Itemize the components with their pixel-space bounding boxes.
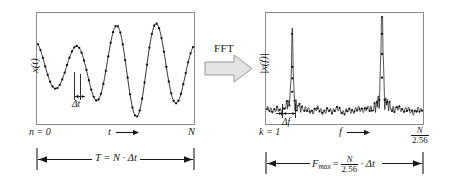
freq-span-label: Fmax= N 2.56 ·Δt bbox=[312, 155, 375, 174]
freq-span-suffix: Δt bbox=[366, 158, 375, 169]
delta-t-label: Δt bbox=[72, 99, 80, 109]
time-plot-ylabel: x(t) bbox=[29, 46, 40, 86]
freq-x-end-denominator: 2.56 bbox=[411, 136, 429, 145]
fft-figure: FFT x(t) n = 0 t N Δt T = N · Δt |x(f)| … bbox=[0, 0, 460, 188]
freq-span-equals: = bbox=[331, 158, 341, 169]
fft-block-arrow bbox=[205, 55, 252, 82]
freq-plot-x-end-label: N 2.56 bbox=[411, 126, 429, 145]
time-span-label: T = N · Δt bbox=[95, 152, 137, 163]
frequency-domain-spectrum bbox=[266, 16, 423, 115]
freq-plot-x-start-label: k = 1 bbox=[259, 126, 280, 137]
time-plot-xlabel: t bbox=[108, 126, 111, 137]
freq-plot-ylabel: |x(f)| bbox=[258, 44, 269, 84]
time-plot-x-start-label: n = 0 bbox=[29, 126, 51, 137]
delta-f-label: Δf bbox=[282, 117, 290, 127]
time-domain-waveform bbox=[37, 23, 194, 118]
fft-label: FFT bbox=[214, 42, 234, 54]
freq-span-subscript: max bbox=[318, 162, 330, 171]
freq-plot-xlabel: f bbox=[339, 126, 342, 137]
delta-t-annotation bbox=[75, 72, 86, 100]
t-axis-arrow bbox=[116, 130, 139, 135]
f-axis-arrow bbox=[347, 130, 370, 135]
freq-span-denominator: 2.56 bbox=[341, 165, 359, 174]
figure-canvas bbox=[0, 0, 460, 188]
time-plot-frame bbox=[37, 13, 195, 125]
freq-span-dot: · bbox=[358, 158, 366, 169]
time-plot-x-end-label: N bbox=[188, 126, 195, 137]
